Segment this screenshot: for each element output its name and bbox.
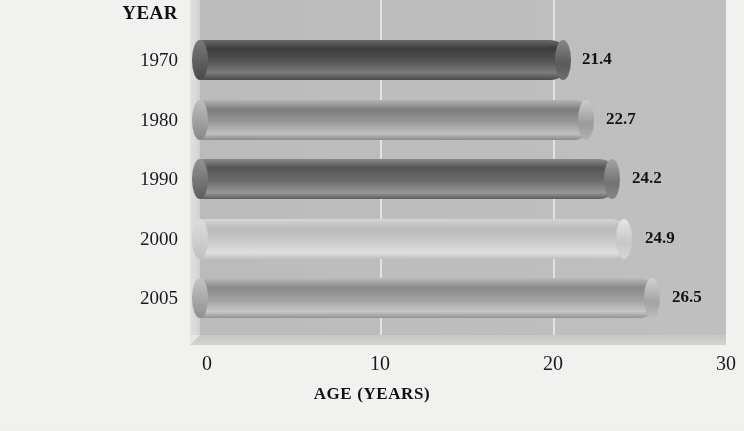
bar-body xyxy=(200,100,593,140)
bar-left-cap xyxy=(192,219,208,259)
year-axis-header: YEAR xyxy=(88,2,178,24)
bar-left-cap xyxy=(192,278,208,318)
bar-left-cap xyxy=(192,100,208,140)
bar-right-cap xyxy=(555,40,571,80)
bar-right-cap xyxy=(578,100,594,140)
bar-2000 xyxy=(200,219,631,259)
y-tick-label-2005: 2005 xyxy=(88,287,178,309)
bar-body xyxy=(200,159,619,199)
bar-body xyxy=(200,219,631,259)
bar-1980 xyxy=(200,100,593,140)
x-tick-label-20: 20 xyxy=(543,352,563,375)
value-label-2005: 26.5 xyxy=(672,287,702,307)
bar-left-cap xyxy=(192,159,208,199)
bar-chart: YEAR 1970 1980 1990 2000 2005 21.4 22.7 … xyxy=(0,0,744,431)
bar-right-cap xyxy=(644,278,660,318)
y-tick-label-1980: 1980 xyxy=(88,109,178,131)
plot-floor xyxy=(190,335,726,345)
bar-left-cap xyxy=(192,40,208,80)
value-label-1980: 22.7 xyxy=(606,109,636,129)
bar-body xyxy=(200,278,659,318)
x-tick-label-30: 30 xyxy=(716,352,736,375)
bar-1970 xyxy=(200,40,570,80)
y-tick-label-1970: 1970 xyxy=(88,49,178,71)
value-label-2000: 24.9 xyxy=(645,228,675,248)
bar-1990 xyxy=(200,159,619,199)
value-label-1970: 21.4 xyxy=(582,49,612,69)
y-tick-label-2000: 2000 xyxy=(88,228,178,250)
bar-right-cap xyxy=(616,219,632,259)
x-tick-label-0: 0 xyxy=(202,352,212,375)
y-tick-label-1990: 1990 xyxy=(88,168,178,190)
bar-right-cap xyxy=(604,159,620,199)
bar-body xyxy=(200,40,570,80)
value-label-1990: 24.2 xyxy=(632,168,662,188)
bar-2005 xyxy=(200,278,659,318)
x-tick-label-10: 10 xyxy=(370,352,390,375)
x-axis-title: AGE (YEARS) xyxy=(0,384,744,404)
